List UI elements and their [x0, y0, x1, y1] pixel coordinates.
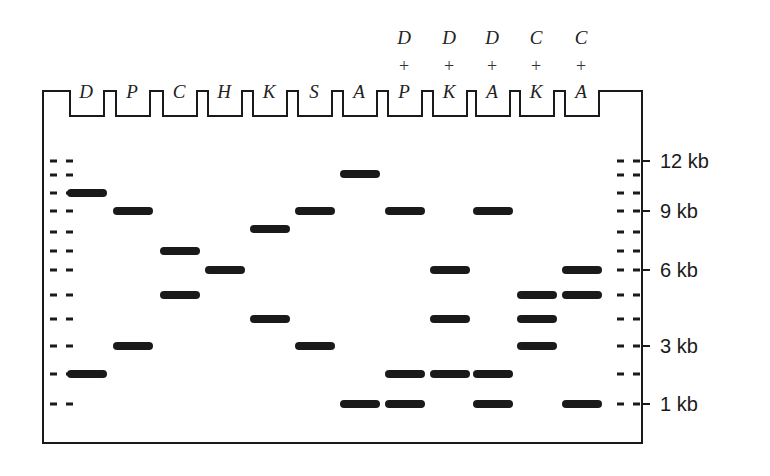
band-D+K	[430, 370, 470, 378]
band-C	[160, 247, 200, 255]
ladder-dash	[50, 269, 57, 272]
ladder-dash	[50, 174, 57, 177]
ladder-dash	[633, 250, 640, 253]
gel-outline-with-wells	[43, 91, 642, 443]
ladder-dash	[633, 174, 640, 177]
ladder-dash	[66, 269, 73, 272]
size-label: 1 kb	[660, 393, 698, 415]
ladder-dash	[617, 403, 624, 406]
lane-label: S	[309, 81, 319, 102]
dna-bands	[67, 170, 602, 408]
ladder-dash	[617, 231, 624, 234]
size-label: 12 kb	[660, 150, 709, 172]
ladder-dash	[633, 294, 640, 297]
lane-label: A	[351, 81, 365, 102]
band-D	[67, 370, 107, 378]
size-label: 9 kb	[660, 200, 698, 222]
size-label: 6 kb	[660, 259, 698, 281]
ladder-dash	[66, 174, 73, 177]
ladder-dash	[66, 318, 73, 321]
ladder-dash	[50, 250, 57, 253]
band-D+P	[385, 370, 425, 378]
band-H	[205, 266, 245, 274]
ladder-dash	[50, 210, 57, 213]
lane-label: A	[484, 81, 498, 102]
band-C+K	[517, 342, 557, 350]
gel-diagram: 12 kb9 kb6 kb3 kb1 kb DPCHKSAD+PD+KD+AC+…	[0, 0, 770, 476]
size-label: 3 kb	[660, 335, 698, 357]
ladder-dash	[633, 210, 640, 213]
lane-label: H	[216, 81, 232, 102]
lane-label-top: D	[484, 27, 499, 48]
band-C+A	[562, 400, 602, 408]
band-P	[113, 342, 153, 350]
band-D+A	[473, 207, 513, 215]
band-D	[67, 189, 107, 197]
band-D+A	[473, 370, 513, 378]
ladder-dash	[633, 345, 640, 348]
ladder-dash	[66, 210, 73, 213]
band-S	[295, 207, 335, 215]
lane-label-plus: +	[444, 56, 454, 76]
ladder-dash	[617, 345, 624, 348]
band-K	[250, 225, 290, 233]
ladder-dash	[50, 231, 57, 234]
size-marker-labels: 12 kb9 kb6 kb3 kb1 kb	[642, 150, 709, 415]
ladder-dash	[66, 231, 73, 234]
lane-label: P	[125, 81, 138, 102]
lane-label-top: C	[530, 27, 543, 48]
lane-label-top: D	[396, 27, 411, 48]
ladder-dash	[633, 269, 640, 272]
band-D+A	[473, 400, 513, 408]
lane-label-top: D	[441, 27, 456, 48]
ladder-dash	[633, 373, 640, 376]
ladder-dash	[66, 345, 73, 348]
ladder-dash	[617, 294, 624, 297]
ladder-dash	[50, 160, 57, 163]
band-C+A	[562, 291, 602, 299]
band-D+P	[385, 400, 425, 408]
ladder-dash	[50, 294, 57, 297]
ladder-dash	[633, 318, 640, 321]
lane-label: P	[397, 81, 410, 102]
ladder-dash	[50, 192, 57, 195]
band-C+K	[517, 315, 557, 323]
band-D+K	[430, 315, 470, 323]
ladder-dash	[66, 250, 73, 253]
band-A	[340, 400, 380, 408]
ladder-dash	[50, 318, 57, 321]
lane-label-plus: +	[576, 56, 586, 76]
ladder-dash	[633, 160, 640, 163]
ladder-dash	[617, 160, 624, 163]
ladder-dash	[633, 403, 640, 406]
lane-label-plus: +	[531, 56, 541, 76]
lane-label-plus: +	[399, 56, 409, 76]
ladder-dash	[66, 403, 73, 406]
ladder-dash	[50, 345, 57, 348]
band-P	[113, 207, 153, 215]
ladder-dash	[66, 160, 73, 163]
ladder-dash	[617, 210, 624, 213]
lane-label: C	[173, 81, 186, 102]
ladder-dash	[617, 250, 624, 253]
ladder-dash	[617, 192, 624, 195]
lane-label: A	[573, 81, 587, 102]
lane-label: K	[442, 81, 457, 102]
lane-label-top: C	[575, 27, 588, 48]
band-C+K	[517, 291, 557, 299]
band-K	[250, 315, 290, 323]
ladder-dash	[617, 269, 624, 272]
ladder-dash	[633, 192, 640, 195]
lane-label-plus: +	[487, 56, 497, 76]
ladder-dash	[50, 403, 57, 406]
lane-label: K	[262, 81, 277, 102]
ladder-dash	[66, 294, 73, 297]
lane-label: D	[78, 81, 93, 102]
ladder-dash	[617, 174, 624, 177]
ladder-dash	[617, 373, 624, 376]
band-C	[160, 291, 200, 299]
band-D+K	[430, 266, 470, 274]
ladder-dash	[633, 231, 640, 234]
ladder-dash	[50, 373, 57, 376]
right-ladder-dashes	[617, 160, 640, 406]
